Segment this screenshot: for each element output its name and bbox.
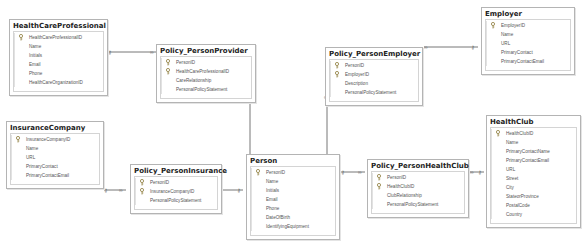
table-insurancecompany[interactable]: InsuranceCompany InsuranceCompanyID Name… (6, 121, 104, 189)
column-row[interactable]: CareRelationship (161, 76, 251, 85)
column-row[interactable]: PrimaryContactEmail (11, 171, 99, 180)
table-title: HealthCareProfessional (10, 20, 107, 31)
column-name: Street (506, 176, 518, 181)
column-name: PersonID (176, 60, 195, 65)
column-row[interactable]: PersonalPolicyStatement (330, 88, 418, 97)
column-row[interactable]: URL (491, 165, 576, 174)
column-row[interactable]: HealthClubID (491, 129, 576, 138)
table-healthcareprofessional[interactable]: HealthCareProfessional HealthCareProfess… (9, 19, 108, 96)
table-policy-personemployer[interactable]: Policy_PersonEmployer PersonID EmployerI… (325, 47, 423, 106)
column-row[interactable]: PrimaryContact (486, 48, 570, 57)
column-row[interactable]: URL (11, 153, 99, 162)
column-row[interactable]: HealthCareProfessionalID (14, 33, 103, 42)
primary-key-icon (376, 183, 382, 190)
column-name: PrimaryContactEmail (506, 158, 549, 163)
column-name: CareRelationship (176, 78, 211, 83)
column-name: StateorProvince (506, 194, 539, 199)
svg-text:⚷: ⚷ (471, 44, 475, 50)
column-row[interactable]: InsuranceCompanyID (135, 187, 217, 196)
column-row[interactable]: InsuranceCompanyID (11, 135, 99, 144)
column-name: HealthClubID (506, 131, 533, 136)
column-row[interactable]: PrimaryContactEmail (486, 57, 570, 66)
table-healthclub[interactable]: HealthClub HealthClubID Name PrimaryCont… (486, 115, 581, 228)
column-row[interactable]: ClubRelationship (372, 191, 464, 200)
svg-text:⚷: ⚷ (237, 187, 241, 193)
column-name: PersonalPolicyStatement (176, 87, 227, 92)
column-name: Name (29, 44, 41, 49)
column-name: HealthCareProfessionalID (176, 69, 229, 74)
svg-text:∞: ∞ (150, 49, 154, 55)
column-row[interactable]: PrimaryContact (11, 162, 99, 171)
primary-key-icon (376, 174, 382, 181)
column-row[interactable]: PersonalPolicyStatement (161, 85, 251, 94)
column-row[interactable]: PersonID (330, 61, 418, 70)
column-name: InsuranceCompanyID (26, 137, 70, 142)
primary-key-icon (255, 169, 261, 176)
svg-text:∞: ∞ (358, 169, 362, 175)
column-row[interactable]: PersonID (372, 173, 464, 182)
svg-text:∞: ∞ (470, 169, 474, 175)
table-title: Employer (482, 8, 574, 19)
column-name: HealthCareOrganizationID (29, 80, 83, 85)
column-row[interactable]: Phone (251, 204, 335, 213)
column-name: URL (26, 155, 35, 160)
column-row[interactable]: PostalCode (491, 201, 576, 210)
table-policy-personinsurance[interactable]: Policy_PersonInsurance PersonID Insuranc… (130, 164, 222, 214)
column-name: Email (266, 197, 278, 202)
table-policy-personhealthclub[interactable]: Policy_PersonHealthClub PersonID HealthC… (367, 159, 469, 218)
column-row[interactable]: PersonID (161, 58, 251, 67)
table-policy-personprovider[interactable]: Policy_PersonProvider PersonID HealthCar… (156, 44, 256, 103)
column-name: Name (266, 179, 278, 184)
column-name: InsuranceCompanyID (150, 189, 194, 194)
svg-text:⚷: ⚷ (108, 49, 112, 55)
column-row[interactable]: Email (251, 195, 335, 204)
column-row[interactable]: PersonID (135, 178, 217, 187)
primary-key-icon (334, 62, 340, 69)
table-title: Policy_PersonHealthClub (368, 160, 468, 171)
column-name: PrimaryContact (501, 50, 533, 55)
column-row[interactable]: Street (491, 174, 576, 183)
primary-key-icon (139, 188, 145, 195)
column-name: URL (501, 41, 510, 46)
column-row[interactable]: Phone (14, 69, 103, 78)
column-name: Email (29, 62, 41, 67)
column-row[interactable]: StateorProvince (491, 192, 576, 201)
column-row[interactable]: Name (11, 144, 99, 153)
column-row[interactable]: IdentifyingEquipment (251, 222, 335, 231)
column-row[interactable]: Country (491, 210, 576, 219)
column-row[interactable]: URL (486, 39, 570, 48)
column-row[interactable]: PersonalPolicyStatement (135, 196, 217, 205)
column-row[interactable]: Name (251, 177, 335, 186)
column-row[interactable]: Name (14, 42, 103, 51)
column-row[interactable]: PersonalPolicyStatement (372, 200, 464, 209)
column-row[interactable]: City (491, 183, 576, 192)
table-title: Policy_PersonInsurance (131, 165, 221, 176)
column-row[interactable]: PrimaryContactName (491, 147, 576, 156)
column-row[interactable]: Name (491, 138, 576, 147)
column-row[interactable]: Name (486, 30, 570, 39)
column-row[interactable]: HealthCareProfessionalID (161, 67, 251, 76)
column-name: PersonalPolicyStatement (387, 202, 438, 207)
primary-key-icon (15, 136, 21, 143)
svg-text:⚷: ⚷ (104, 187, 108, 193)
column-row[interactable]: EmployerID (330, 70, 418, 79)
primary-key-icon (490, 22, 496, 29)
column-name: City (506, 185, 514, 190)
column-row[interactable]: Email (14, 60, 103, 69)
column-row[interactable]: HealthClubID (372, 182, 464, 191)
column-row[interactable]: PrimaryContactEmail (491, 156, 576, 165)
column-row[interactable]: EmployerID (486, 21, 570, 30)
column-name: Country (506, 212, 522, 217)
column-row[interactable]: HealthCareOrganizationID (14, 78, 103, 87)
column-row[interactable]: Description (330, 79, 418, 88)
table-person[interactable]: Person PersonID Name Initials Email Phon… (246, 154, 340, 240)
column-name: Description (345, 81, 368, 86)
column-name: EmployerID (345, 72, 369, 77)
column-row[interactable]: DateOfBirth (251, 213, 335, 222)
column-row[interactable]: Initials (251, 186, 335, 195)
table-employer[interactable]: Employer EmployerID Name URL PrimaryCont… (481, 7, 575, 75)
column-name: Initials (266, 188, 279, 193)
column-row[interactable]: PersonID (251, 168, 335, 177)
column-row[interactable]: Initials (14, 51, 103, 60)
primary-key-icon (139, 179, 145, 186)
